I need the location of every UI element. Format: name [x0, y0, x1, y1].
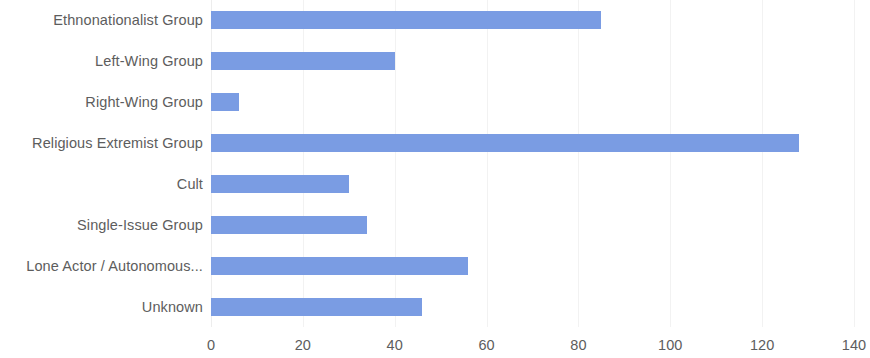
x-axis: 020406080100120140 [211, 327, 854, 358]
bar-rows [211, 0, 854, 327]
x-axis-tick-label: 20 [295, 337, 311, 353]
y-axis-label: Religious Extremist Group [0, 123, 203, 164]
x-axis-tick-label: 60 [478, 337, 494, 353]
x-axis-tick-label: 80 [570, 337, 586, 353]
bar[interactable] [211, 257, 468, 275]
y-axis-category-labels: Ethnonationalist GroupLeft-Wing GroupRig… [0, 0, 203, 327]
y-axis-label: Ethnonationalist Group [0, 0, 203, 41]
bar-row [211, 286, 854, 327]
bar[interactable] [211, 298, 422, 316]
bar-row [211, 204, 854, 245]
bar[interactable] [211, 52, 395, 70]
bar[interactable] [211, 175, 349, 193]
y-axis-label: Unknown [0, 286, 203, 327]
bar-chart: Ethnonationalist GroupLeft-Wing GroupRig… [0, 0, 870, 358]
bar[interactable] [211, 11, 601, 29]
bar[interactable] [211, 134, 799, 152]
bar-row [211, 82, 854, 123]
bar-row [211, 41, 854, 82]
x-axis-tick-label: 120 [750, 337, 775, 353]
bar[interactable] [211, 93, 239, 111]
bar-row [211, 0, 854, 41]
bar-row [211, 164, 854, 205]
bar-row [211, 123, 854, 164]
y-axis-label: Right-Wing Group [0, 82, 203, 123]
x-axis-tick-label: 140 [842, 337, 867, 353]
bar[interactable] [211, 216, 367, 234]
gridline-140 [854, 0, 855, 327]
bar-row [211, 245, 854, 286]
x-axis-tick-label: 100 [658, 337, 683, 353]
y-axis-label: Left-Wing Group [0, 41, 203, 82]
x-axis-tick-label: 0 [207, 337, 215, 353]
x-axis-tick-label: 40 [387, 337, 403, 353]
y-axis-label: Lone Actor / Autonomous... [0, 245, 203, 286]
plot-area [211, 0, 854, 327]
y-axis-label: Cult [0, 164, 203, 205]
y-axis-label: Single-Issue Group [0, 204, 203, 245]
